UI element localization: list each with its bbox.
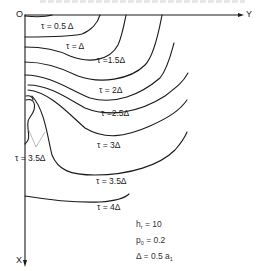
contour-label-t10: τ = Δ xyxy=(66,42,84,51)
parameters-legend: hr = 10 p0 = 0.2 Δ = 0.5 a1 xyxy=(136,218,173,266)
x-axis-label: X xyxy=(16,256,22,265)
contour-label-t30: τ = 3Δ xyxy=(97,141,120,150)
contour-label-t35-inner: τ = 3.5Δ xyxy=(15,154,46,163)
param-p: p0 = 0.2 xyxy=(136,234,173,250)
contour-diagram xyxy=(0,0,257,271)
contour-t40 xyxy=(25,194,129,202)
contour-label-t35: τ = 3.5Δ xyxy=(96,177,127,186)
contour-label-t15: τ =1.5Δ xyxy=(97,56,125,65)
contour-label-t20: τ = 2Δ xyxy=(99,86,122,95)
y-axis-label: Y xyxy=(246,10,252,19)
contour-label-t05: τ = 0.5 Δ xyxy=(41,22,73,31)
param-h: hr = 10 xyxy=(136,218,173,234)
origin-label: O xyxy=(16,10,23,19)
y-axis-arrow-icon xyxy=(238,13,244,17)
construction-lines xyxy=(27,126,45,147)
contour-label-t40: τ = 4Δ xyxy=(97,203,120,212)
contour-inner-loop xyxy=(25,99,35,144)
param-delta: Δ = 0.5 a1 xyxy=(136,250,173,266)
x-axis-arrow-icon xyxy=(23,260,27,267)
contour-label-t25: τ =2.5Δ xyxy=(101,109,129,118)
